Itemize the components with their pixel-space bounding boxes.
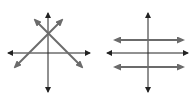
- line-rising: [15, 20, 62, 67]
- line-falling: [35, 20, 82, 67]
- intersecting-lines-diagram: [8, 13, 90, 92]
- parallel-lines-diagram: [107, 13, 188, 92]
- diagram-canvas: [0, 0, 190, 97]
